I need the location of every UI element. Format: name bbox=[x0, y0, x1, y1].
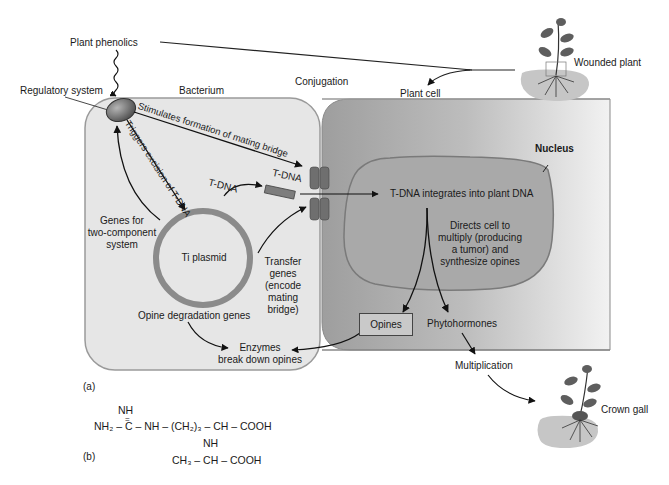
label-tdna-integrates: T-DNA integrates into plant DNA bbox=[390, 188, 533, 200]
chem-alanine-chain: CH₃ – CH – COOH bbox=[172, 454, 261, 467]
label-enzymes: Enzymes break down opines bbox=[215, 342, 305, 366]
label-opine-degradation-genes: Opine degradation genes bbox=[138, 310, 250, 322]
panel-b-label: (b) bbox=[83, 451, 95, 463]
gall-tumor bbox=[572, 411, 588, 421]
label-regulatory-system: Regulatory system bbox=[20, 85, 103, 97]
label-genes-two-component: Genes for two-component system bbox=[86, 215, 158, 251]
label-wounded-plant: Wounded plant bbox=[574, 57, 641, 69]
label-transfer-genes: Transfer genes (encode mating bridge) bbox=[258, 256, 308, 316]
chem-main-chain: NH₂ – C – NH – (CH₂)₃ – CH – COOH bbox=[94, 420, 272, 433]
label-bacterium: Bacterium bbox=[179, 85, 224, 97]
label-conjugation: Conjugation bbox=[295, 76, 348, 88]
label-plant-cell: Plant cell bbox=[400, 88, 441, 100]
panel-a-label: (a) bbox=[83, 381, 95, 393]
label-ti-plasmid: Ti plasmid bbox=[168, 252, 240, 264]
opines-box: Opines bbox=[359, 313, 413, 336]
crown-gall-illustration bbox=[538, 365, 602, 448]
label-directs-cell: Directs cell to multiply (producing a tu… bbox=[430, 220, 530, 268]
label-nucleus: Nucleus bbox=[535, 143, 574, 155]
label-crown-gall: Crown gall bbox=[601, 404, 648, 416]
label-multiplication: Multiplication bbox=[455, 360, 513, 372]
chem-bridge-nh: NH bbox=[203, 437, 218, 450]
label-plant-phenolics: Plant phenolics bbox=[70, 37, 138, 49]
label-phytohormones: Phytohormones bbox=[427, 318, 497, 330]
